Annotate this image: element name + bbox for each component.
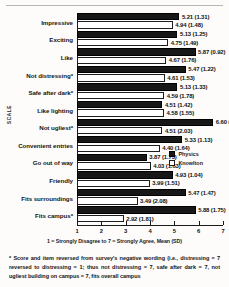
bar-group: Exciting5.13 (1.25)4.75 (1.49)	[77, 31, 223, 49]
x-axis-tick-label: 3	[124, 228, 127, 234]
bar-row: 4.94 (1.48)	[77, 21, 223, 28]
bar-physics[interactable]	[77, 13, 179, 20]
legend-label-knowlton: Knowlton	[178, 160, 203, 166]
bar-knowlton[interactable]	[77, 197, 138, 204]
bar-value-label: 4.93 (1.04)	[175, 172, 202, 178]
chart-legend: Physics Knowlton	[169, 151, 203, 166]
bar-physics[interactable]	[77, 83, 177, 90]
bar-knowlton[interactable]	[77, 162, 151, 169]
bar-physics[interactable]	[77, 136, 182, 143]
bar-group: Safe after dark*5.13 (1.33)4.59 (1.78)	[77, 83, 223, 101]
bar-group: Not distressing*5.47 (1.22)4.61 (1.53)	[77, 66, 223, 84]
bar-physics[interactable]	[77, 119, 213, 126]
bar-value-label: 4.67 (1.76)	[169, 57, 196, 63]
x-axis-tick	[126, 221, 127, 225]
bar-value-label: 4.94 (1.48)	[175, 22, 202, 28]
x-axis-tick-label: 7	[221, 228, 224, 234]
bar-group: Not ugliest*6.60 (0.83)4.51 (2.03)	[77, 119, 223, 137]
bar-value-label: 6.60 (0.83)	[216, 119, 229, 125]
bar-value-label: 5.47 (1.22)	[188, 66, 215, 72]
bar-physics[interactable]	[77, 171, 173, 178]
bar-row: 5.33 (1.13)	[77, 136, 223, 143]
category-label: Safe after dark*	[28, 89, 73, 96]
category-label: Not ugliest*	[39, 124, 73, 131]
bar-knowlton[interactable]	[77, 21, 173, 28]
bar-knowlton[interactable]	[77, 180, 150, 187]
bar-value-label: 5.47 (1.47)	[188, 190, 215, 196]
legend-swatch-physics	[169, 151, 175, 157]
bar-group: Fits surroundings5.47 (1.47)3.49 (2.08)	[77, 189, 223, 207]
bar-group: Friendly4.93 (1.04)3.99 (1.51)	[77, 171, 223, 189]
category-label: Not distressing*	[26, 71, 73, 78]
bar-value-label: 5.13 (1.33)	[180, 84, 207, 90]
bar-knowlton[interactable]	[77, 57, 166, 64]
bar-value-label: 4.51 (1.42)	[165, 102, 192, 108]
x-axis-tick	[150, 221, 151, 225]
bar-value-label: 4.58 (1.55)	[167, 110, 194, 116]
x-axis-tick	[77, 221, 78, 225]
x-axis-tick-label: 2	[100, 228, 103, 234]
x-axis-tick	[199, 221, 200, 225]
bar-knowlton[interactable]	[77, 92, 164, 99]
bar-row: 4.61 (1.53)	[77, 74, 223, 81]
category-label: Like	[61, 53, 73, 60]
x-axis-tick-label: 5	[173, 228, 176, 234]
category-label: Friendly	[49, 177, 73, 184]
bar-row: 5.47 (1.22)	[77, 66, 223, 73]
bar-row: 4.93 (1.04)	[77, 171, 223, 178]
top-divider	[6, 5, 223, 6]
x-axis-line: 1234567	[77, 225, 223, 226]
bar-value-label: 3.99 (1.51)	[152, 180, 179, 186]
x-axis-tick	[223, 221, 224, 225]
plot-area: Impressive5.21 (1.31)4.94 (1.48)Exciting…	[77, 13, 223, 224]
bar-knowlton[interactable]	[77, 74, 165, 81]
bar-value-label: 4.61 (1.53)	[167, 75, 194, 81]
bar-physics[interactable]	[77, 66, 186, 73]
bar-value-label: 5.88 (1.75)	[198, 207, 225, 213]
bar-physics[interactable]	[77, 31, 177, 38]
y-axis-title: SCALE	[7, 97, 12, 133]
bar-row: 6.60 (0.83)	[77, 119, 223, 126]
bar-knowlton[interactable]	[77, 145, 160, 152]
bar-value-label: 5.33 (1.13)	[185, 137, 212, 143]
legend-item-physics[interactable]: Physics	[169, 151, 203, 157]
bar-physics[interactable]	[77, 154, 147, 161]
x-axis-tick-label: 1	[75, 228, 78, 234]
category-label: Go out of way	[33, 159, 73, 166]
bar-group: Impressive5.21 (1.31)4.94 (1.48)	[77, 13, 223, 31]
bar-knowlton[interactable]	[77, 39, 168, 46]
bar-row: 5.47 (1.47)	[77, 189, 223, 196]
x-axis-caption: 1 = Strongly Disagree to 7 = Strongly Ag…	[0, 238, 229, 244]
bar-row: 4.67 (1.76)	[77, 57, 223, 64]
bar-knowlton[interactable]	[77, 127, 162, 134]
bar-physics[interactable]	[77, 189, 186, 196]
category-label: Impressive	[41, 18, 73, 25]
bar-physics[interactable]	[77, 206, 196, 213]
bar-row: 5.88 (1.75)	[77, 206, 223, 213]
x-axis-tick	[101, 221, 102, 225]
legend-item-knowlton[interactable]: Knowlton	[169, 160, 203, 166]
bar-knowlton[interactable]	[77, 109, 164, 116]
x-axis-tick-label: 6	[197, 228, 200, 234]
bar-row: 3.49 (2.08)	[77, 197, 223, 204]
bar-value-label: 4.75 (1.49)	[171, 40, 198, 46]
bar-physics[interactable]	[77, 101, 162, 108]
category-label: Exciting	[49, 36, 73, 43]
category-label: Fits campus*	[35, 212, 73, 219]
bar-group: Like5.87 (0.92)4.67 (1.76)	[77, 48, 223, 66]
bar-value-label: 5.13 (1.25)	[180, 31, 207, 37]
bar-row: 4.51 (1.42)	[77, 101, 223, 108]
bar-row: 5.87 (0.92)	[77, 48, 223, 55]
bar-row: 3.99 (1.51)	[77, 180, 223, 187]
footnote-text: * Score and item reversed from survey's …	[9, 254, 220, 282]
bar-row: 5.21 (1.31)	[77, 13, 223, 20]
legend-swatch-knowlton	[169, 160, 175, 166]
category-label: Convenient entries	[18, 141, 73, 148]
bar-value-label: 5.87 (0.92)	[198, 49, 225, 55]
bar-value-label: 3.49 (2.08)	[140, 198, 167, 204]
bar-row: 4.51 (2.03)	[77, 127, 223, 134]
legend-label-physics: Physics	[178, 151, 198, 157]
bar-row: 5.13 (1.25)	[77, 31, 223, 38]
category-label: Fits surroundings	[21, 194, 73, 201]
bar-physics[interactable]	[77, 48, 196, 55]
